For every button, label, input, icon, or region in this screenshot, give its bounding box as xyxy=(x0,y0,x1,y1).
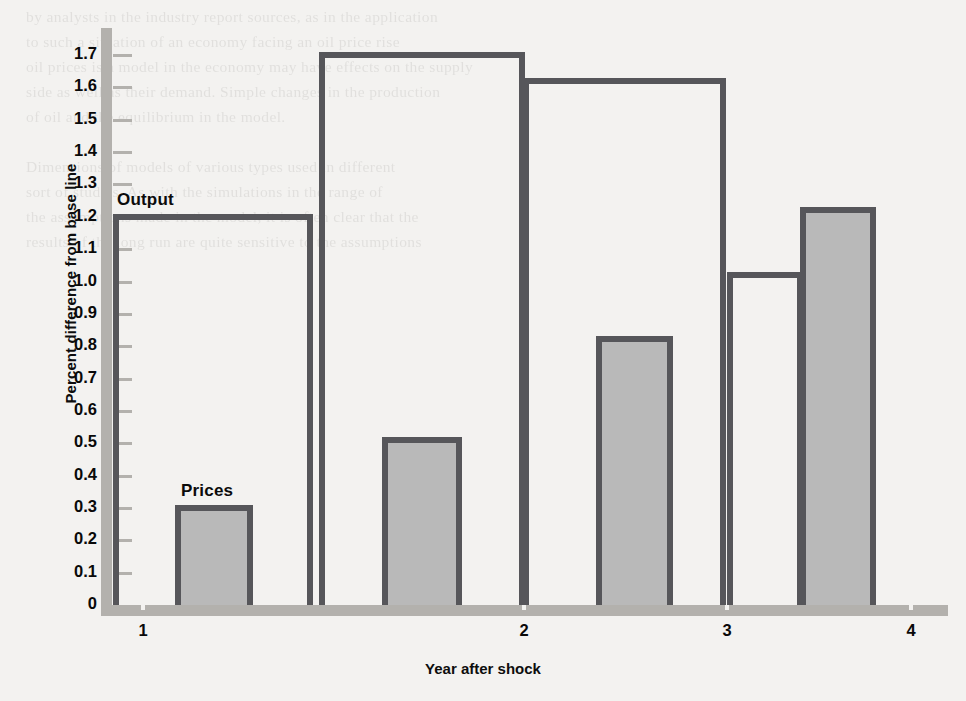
y-axis-tick xyxy=(113,151,132,154)
y-axis-tick-label: 1.6 xyxy=(7,76,97,95)
y-axis-tick-label: 1.2 xyxy=(7,206,97,225)
y-axis-tick xyxy=(113,183,132,186)
x-axis-tick-label: 3 xyxy=(697,621,757,640)
x-axis-tick xyxy=(909,596,913,610)
y-axis-tick-label: 1.5 xyxy=(7,109,97,128)
y-axis-tick xyxy=(113,119,132,122)
y-axis-tick-label: 0.9 xyxy=(7,303,97,322)
y-axis-tick-label: 0.8 xyxy=(7,335,97,354)
y-axis-tick-label: 0.4 xyxy=(7,465,97,484)
y-axis-tick-label: 1.1 xyxy=(7,238,97,257)
y-axis-tick-label: 1.3 xyxy=(7,173,97,192)
y-axis-tick-label: 0.3 xyxy=(7,497,97,516)
y-axis-tick-label: 0.7 xyxy=(7,368,97,387)
y-axis-tick-label: 1.0 xyxy=(7,271,97,290)
x-axis-tick-label: 4 xyxy=(881,621,941,640)
y-axis-tick xyxy=(113,86,132,89)
bar-prices-year-3 xyxy=(596,336,673,605)
x-axis-title: Year after shock xyxy=(0,660,966,677)
y-axis-line xyxy=(101,28,112,610)
x-axis-tick-label: 2 xyxy=(494,621,554,640)
bar-prices-year-2 xyxy=(382,437,462,605)
bar-prices-year-1 xyxy=(175,505,253,605)
x-axis-tick-label: 1 xyxy=(113,621,173,640)
series-label-prices: Prices xyxy=(181,481,233,501)
bar-chart: Percent difference from base line Year a… xyxy=(0,0,966,701)
y-axis-tick-label: 0.6 xyxy=(7,400,97,419)
y-axis-tick-label: 0.2 xyxy=(7,529,97,548)
y-axis-tick-label: 0.5 xyxy=(7,432,97,451)
bar-prices-year-4 xyxy=(800,207,876,605)
y-axis-tick xyxy=(113,54,132,57)
y-axis-tick-label: 1.7 xyxy=(7,44,97,63)
bar-output-year-4 xyxy=(727,272,803,605)
series-label-output: Output xyxy=(117,190,174,210)
y-axis-tick-label: 0 xyxy=(7,594,97,613)
y-axis-tick-label: 1.4 xyxy=(7,141,97,160)
y-axis-tick-label: 0.1 xyxy=(7,562,97,581)
